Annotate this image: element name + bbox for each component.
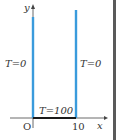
- origin-label: O: [23, 122, 31, 132]
- x-axis-label: x: [97, 121, 103, 131]
- diagram-canvas: [0, 0, 116, 140]
- x-tick-label-10: 10: [72, 122, 85, 132]
- page-edge-bar: [113, 0, 116, 140]
- bottom-boundary-label: T=100: [39, 106, 73, 116]
- right-boundary-label: T=0: [80, 59, 101, 69]
- y-axis-label: y: [24, 3, 30, 13]
- y-axis-arrow-icon: [31, 4, 35, 9]
- x-axis-arrow-icon: [104, 116, 108, 120]
- left-boundary-label: T=0: [5, 59, 26, 69]
